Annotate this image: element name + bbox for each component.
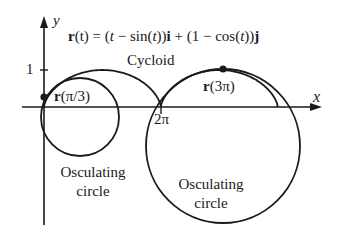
x-tick-label: 2π xyxy=(154,112,169,127)
y-axis-label: y xyxy=(53,13,60,28)
cycloid-figure: y x 1 2π r(t) = (t − sin(t))i + (1 − cos… xyxy=(0,0,340,242)
osculating-label-small: Osculating circle xyxy=(52,163,134,201)
osculating-label-large: Osculating circle xyxy=(167,175,255,213)
point-r-pi-over-3 xyxy=(40,93,47,100)
y-axis-arrow-icon xyxy=(40,16,48,28)
x-axis-label: x xyxy=(313,89,320,105)
equation: r(t) = (t − sin(t))i + (1 − cos(t))j xyxy=(68,29,259,44)
point-r-3pi xyxy=(219,65,226,72)
point1-label: r(π/3) xyxy=(54,89,90,104)
cycloid-label: Cycloid xyxy=(127,53,175,68)
y-tick-label: 1 xyxy=(26,62,34,77)
point2-label: r(3π) xyxy=(203,79,235,94)
